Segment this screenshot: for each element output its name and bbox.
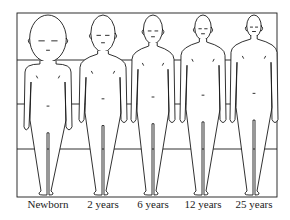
figure-label-12-years: 12 years xyxy=(185,198,222,210)
figure-label-newborn: Newborn xyxy=(28,198,69,210)
body-proportions-diagram xyxy=(0,0,290,220)
figure-6-years xyxy=(131,15,175,195)
figures xyxy=(24,15,278,195)
figure-12-years xyxy=(180,15,226,195)
figure-25-years xyxy=(230,15,278,195)
figure-label-6-years: 6 years xyxy=(137,198,168,210)
figure-newborn xyxy=(24,15,72,195)
figure-label-25-years: 25 years xyxy=(236,198,273,210)
figure-label-2-years: 2 years xyxy=(87,198,118,210)
figure-2-years xyxy=(79,15,127,195)
